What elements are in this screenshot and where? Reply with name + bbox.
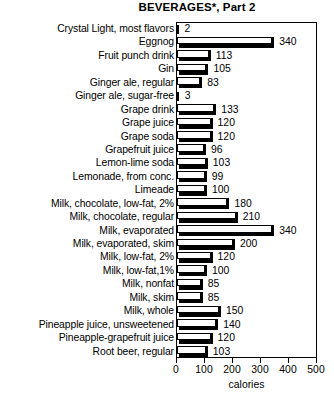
chart-bar-row: Milk, evaporated, skim200 — [0, 237, 334, 251]
bar-value-label: 96 — [211, 143, 223, 156]
bar-value-label: 103 — [213, 345, 230, 358]
bar-face — [177, 158, 206, 166]
bar — [177, 157, 210, 170]
category-label: Milk, nonfat — [0, 277, 174, 290]
bar — [177, 104, 218, 117]
bar-end-cap — [210, 252, 213, 263]
category-label: Grape soda — [0, 130, 174, 143]
bar-end-cap — [205, 64, 208, 75]
category-label: Milk, chocolate, regular — [0, 210, 174, 223]
bar-end-cap — [205, 346, 208, 357]
chart-bar-row: Milk, evaporated340 — [0, 224, 334, 238]
category-label: Ginger ale, regular — [0, 76, 174, 89]
chart-bar-row: Pineapple juice, unsweetened140 — [0, 318, 334, 332]
bar-end-cap — [226, 198, 229, 209]
bar — [177, 171, 209, 184]
bar-end-cap — [204, 265, 207, 276]
x-axis-tick — [316, 358, 317, 363]
bar-end-cap — [204, 171, 207, 182]
bar-face — [177, 171, 205, 179]
bar-end-cap — [213, 104, 216, 115]
bar — [177, 77, 204, 90]
bar-end-cap — [210, 118, 213, 129]
bar-end-cap — [177, 92, 179, 101]
chart-bar-row: Grape juice120 — [0, 116, 334, 130]
x-axis-tick — [288, 358, 289, 363]
bar-value-label: 133 — [221, 103, 238, 116]
bar-end-cap — [208, 50, 211, 61]
bar-value-label: 2 — [185, 22, 191, 35]
bar-value-label: 99 — [212, 170, 224, 183]
x-axis-title: calories — [176, 379, 317, 390]
category-label: Grape drink — [0, 103, 174, 116]
bar-value-label: 83 — [207, 76, 219, 89]
x-axis-tick-label: 500 — [301, 364, 331, 375]
bar-end-cap — [232, 239, 235, 250]
x-axis-tick-label: 400 — [273, 364, 303, 375]
chart-bar-row: Gin105 — [0, 62, 334, 76]
bar — [177, 144, 208, 157]
category-label: Pineapple-grapefruit juice — [0, 331, 174, 344]
x-axis-tick — [204, 358, 205, 363]
bar — [177, 117, 215, 130]
category-label: Milk, evaporated — [0, 224, 174, 237]
bar-end-cap — [177, 25, 179, 34]
bar-value-label: 103 — [213, 156, 230, 169]
bar-value-label: 140 — [223, 318, 240, 331]
bar-face — [177, 77, 200, 85]
bar-end-cap — [235, 212, 238, 223]
bar-face — [177, 239, 233, 247]
bar-face — [177, 144, 204, 152]
bar-face — [177, 37, 272, 45]
chart-bar-row: Ginger ale, sugar-free3 — [0, 89, 334, 103]
chart-bar-row: Crystal Light, most flavors2 — [0, 22, 334, 36]
bar-end-cap — [210, 333, 213, 344]
bar — [177, 238, 237, 251]
chart-bar-row: Root beer, regular103 — [0, 345, 334, 359]
chart-bar-row: Ginger ale, regular83 — [0, 76, 334, 90]
bar-value-label: 120 — [218, 331, 235, 344]
x-axis-tick-label: 100 — [189, 364, 219, 375]
x-axis-tick — [232, 358, 233, 363]
bar-face — [177, 212, 236, 220]
beverages-calorie-chart: BEVERAGES*, Part 2 Crystal Light, most f… — [0, 0, 334, 400]
category-label: Milk, low-fat, 2% — [0, 250, 174, 263]
chart-bar-row: Limeade100 — [0, 183, 334, 197]
chart-bar-row: Grapefruit juice96 — [0, 143, 334, 157]
chart-bar-row: Fruit punch drink113 — [0, 49, 334, 63]
bar-face — [177, 319, 216, 327]
category-label: Eggnog — [0, 35, 174, 48]
bar-face — [177, 104, 214, 112]
chart-bar-row: Lemonade, from conc.99 — [0, 170, 334, 184]
category-label: Ginger ale, sugar-free — [0, 89, 174, 102]
bar — [177, 346, 210, 359]
category-label: Fruit punch drink — [0, 49, 174, 62]
bar — [177, 23, 182, 36]
x-axis-tick — [176, 358, 177, 363]
bar — [177, 63, 210, 76]
category-label: Lemonade, from conc. — [0, 170, 174, 183]
category-label: Milk, chocolate, low-fat, 2% — [0, 197, 174, 210]
bar — [177, 36, 276, 49]
bar-end-cap — [271, 37, 274, 48]
bar-face — [177, 185, 205, 193]
x-axis: 0100200300400500 — [176, 358, 317, 359]
bar-face — [177, 131, 211, 139]
bar-end-cap — [200, 279, 203, 290]
bar — [177, 278, 205, 291]
bar-value-label: 100 — [212, 183, 229, 196]
category-label: Grape juice — [0, 116, 174, 129]
bar-value-label: 120 — [218, 130, 235, 143]
bar-face — [177, 118, 211, 126]
bar-face — [177, 50, 209, 58]
bar-end-cap — [205, 158, 208, 169]
category-label: Milk, evaporated, skim — [0, 237, 174, 250]
bar-end-cap — [271, 225, 274, 236]
x-axis-tick-label: 300 — [245, 364, 275, 375]
bar — [177, 211, 240, 224]
bar — [177, 251, 215, 264]
chart-bar-row: Milk, whole150 — [0, 304, 334, 318]
bar-face — [177, 225, 272, 233]
category-label: Limeade — [0, 183, 174, 196]
bar-face — [177, 279, 201, 287]
